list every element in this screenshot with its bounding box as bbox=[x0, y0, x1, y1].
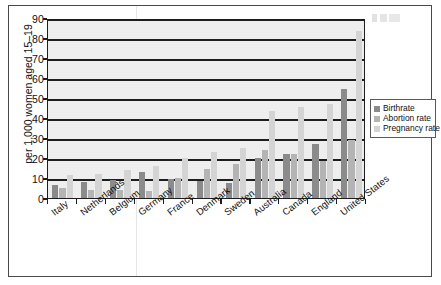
bar-abort bbox=[320, 161, 326, 198]
legend-swatch-abort bbox=[374, 116, 380, 122]
bar-group bbox=[308, 20, 337, 198]
bar-group bbox=[250, 20, 279, 198]
bar-birth bbox=[52, 185, 58, 198]
plot-area bbox=[47, 19, 365, 199]
bar-group bbox=[77, 20, 106, 198]
bar-preg bbox=[298, 107, 304, 198]
bar-group bbox=[135, 20, 164, 198]
scan-smudge-artifact bbox=[372, 14, 400, 22]
bar-abort bbox=[348, 140, 354, 198]
legend-label: Abortion rate bbox=[383, 114, 431, 123]
bar-birth bbox=[312, 144, 318, 198]
chart-figure: 0102030405060708090 per 1,000 women aged… bbox=[0, 0, 441, 285]
legend-item: Abortion rate bbox=[374, 114, 433, 123]
y-tick-label: 0 bbox=[6, 194, 44, 204]
x-tick-mark bbox=[76, 199, 77, 204]
chart-legend: BirthrateAbortion ratePregnancy rate bbox=[370, 99, 436, 138]
bar-group bbox=[164, 20, 193, 198]
bar-abort bbox=[175, 178, 181, 198]
bar-abort bbox=[59, 188, 65, 198]
bar-group bbox=[279, 20, 308, 198]
bar-group bbox=[221, 20, 250, 198]
bar-preg bbox=[67, 175, 73, 198]
legend-label: Pregnancy rate bbox=[383, 124, 440, 133]
bar-preg bbox=[356, 31, 362, 198]
bar-abort bbox=[291, 154, 297, 198]
bar-abort bbox=[233, 164, 239, 198]
x-tick-mark bbox=[47, 199, 48, 204]
legend-label: Birthrate bbox=[383, 104, 415, 113]
bar-abort bbox=[204, 169, 210, 198]
legend-item: Pregnancy rate bbox=[374, 124, 433, 133]
legend-item: Birthrate bbox=[374, 104, 433, 113]
bar-birth bbox=[255, 158, 261, 198]
bar-group bbox=[48, 20, 77, 198]
bar-group bbox=[193, 20, 222, 198]
bar-group bbox=[106, 20, 135, 198]
bar-birth bbox=[81, 182, 87, 198]
bar-birth bbox=[197, 181, 203, 198]
legend-swatch-preg bbox=[374, 126, 380, 132]
legend-swatch-birth bbox=[374, 106, 380, 112]
bar-preg bbox=[327, 104, 333, 198]
bar-group bbox=[337, 20, 366, 198]
bar-preg bbox=[269, 111, 275, 198]
bar-abort bbox=[262, 150, 268, 198]
y-axis-title: per 1,000 women aged 15–19 bbox=[22, 4, 34, 184]
bar-birth bbox=[341, 89, 347, 198]
